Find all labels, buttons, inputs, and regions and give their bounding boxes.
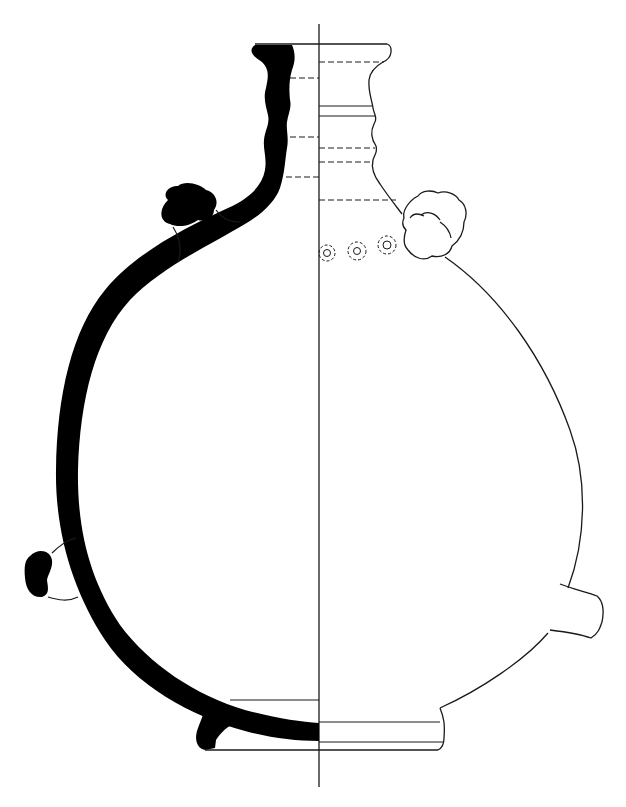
stamped-ring-1: [319, 245, 335, 261]
section-interior-lines: [205, 44, 319, 750]
stamped-rings: [319, 236, 396, 261]
shoulder-lug-right: [403, 191, 466, 259]
stamped-ring-2: [348, 242, 366, 260]
vessel-drawing-svg: [0, 0, 626, 807]
elevation-lines: [319, 62, 444, 750]
elevation-outline: [319, 44, 603, 750]
stamped-ring-3: [378, 236, 396, 254]
pottery-drawing: flask / pilgrim-bottle with ring-decorat…: [0, 0, 626, 807]
section-wall: [25, 45, 319, 750]
